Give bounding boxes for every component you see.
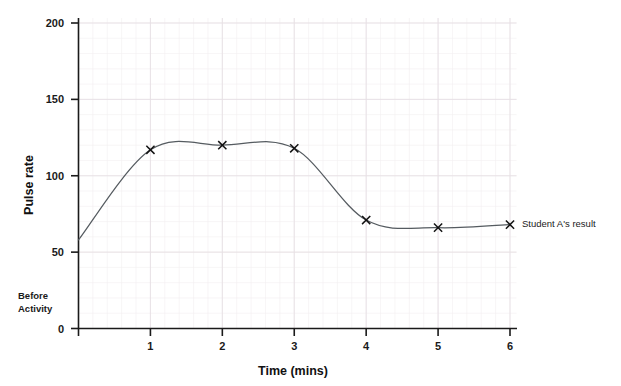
y-tick-label: 50 bbox=[52, 246, 64, 258]
pulse-rate-chart: 050100150200 123456 Time (mins) Pulse ra… bbox=[0, 0, 621, 386]
x-tick-label: 4 bbox=[363, 340, 370, 352]
x-tick-label: 5 bbox=[435, 340, 441, 352]
before-activity-label-line2: Activity bbox=[18, 303, 53, 314]
x-tick-label: 1 bbox=[147, 340, 153, 352]
x-tick-label: 6 bbox=[507, 340, 513, 352]
y-tick-label: 150 bbox=[46, 93, 64, 105]
x-tick-label: 2 bbox=[219, 340, 225, 352]
y-tick-label: 200 bbox=[46, 17, 64, 29]
y-tick-label: 0 bbox=[58, 323, 64, 335]
y-tick-label: 100 bbox=[46, 170, 64, 182]
x-tick-label: 3 bbox=[291, 340, 297, 352]
chart-canvas: 050100150200 123456 Time (mins) Pulse ra… bbox=[0, 0, 621, 386]
x-axis-title: Time (mins) bbox=[258, 364, 328, 378]
student-result-annotation: Student A's result bbox=[522, 218, 596, 229]
before-activity-label-line1: Before bbox=[18, 290, 48, 301]
y-axis-title: Pulse rate bbox=[22, 155, 36, 215]
